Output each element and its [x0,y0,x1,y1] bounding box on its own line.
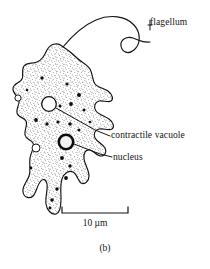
label-flagellum: flagellum [150,17,187,27]
figure-caption: (b) [0,243,210,253]
label-nucleus: nucleus [113,152,143,162]
scale-bar [62,207,128,213]
small-vacuole-organelle [32,144,40,152]
label-contractile-vacuole: contractile vacuole [111,130,185,140]
nucleus-organelle [59,135,73,149]
contractile-vacuole-organelle [42,97,57,112]
figure-root: flagellum contractile vacuole nucleus 10… [0,0,210,269]
small-vacuole-organelle [15,95,21,101]
cytoplasm-stipple-overlay [10,40,120,220]
flagellum-structure [63,17,150,53]
cell-body [10,40,120,220]
scale-bar-label: 10 µm [62,218,128,228]
